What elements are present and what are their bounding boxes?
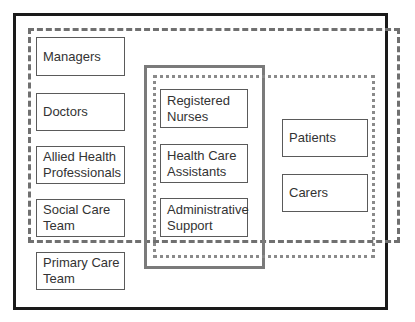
- node-label: Doctors: [43, 104, 88, 120]
- node-patients: Patients: [282, 119, 368, 157]
- node-social-care-team: Social Care Team: [36, 199, 125, 237]
- node-label: Administrative Support: [167, 202, 249, 234]
- node-label: Social Care Team: [43, 202, 110, 234]
- node-registered-nurses: Registered Nurses: [160, 89, 248, 128]
- node-label: Registered Nurses: [167, 93, 230, 125]
- node-carers: Carers: [282, 174, 368, 212]
- node-health-care-assistants: Health Care Assistants: [160, 144, 248, 183]
- node-primary-care-team: Primary Care Team: [36, 252, 125, 290]
- node-doctors: Doctors: [36, 93, 125, 131]
- node-label: Health Care Assistants: [167, 148, 236, 180]
- node-administrative-support: Administrative Support: [160, 198, 248, 237]
- node-label: Allied Health Professionals: [43, 149, 121, 181]
- node-label: Primary Care Team: [43, 255, 120, 287]
- node-allied-health-professionals: Allied Health Professionals: [36, 146, 125, 184]
- node-label: Carers: [289, 185, 328, 201]
- node-label: Managers: [43, 49, 101, 65]
- node-managers: Managers: [36, 37, 125, 76]
- node-label: Patients: [289, 130, 336, 146]
